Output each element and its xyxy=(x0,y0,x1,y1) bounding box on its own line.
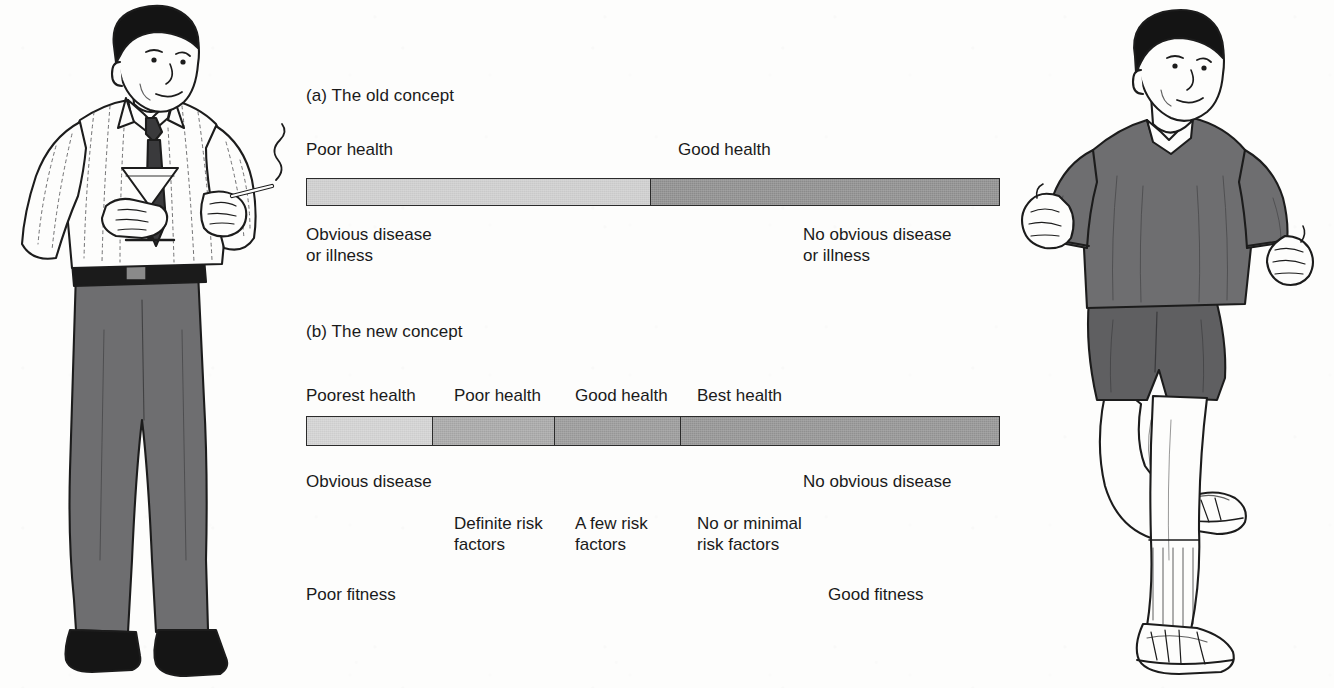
panel-a-continuum-bar xyxy=(306,178,1000,206)
panel-a-label-below-left: Obvious disease or illness xyxy=(306,224,432,266)
panel-a-segment-poor-health xyxy=(307,179,650,205)
panel-b-label-poorest-health: Poorest health xyxy=(306,385,416,406)
panel-a-title: (a) The old concept xyxy=(306,86,454,106)
panel-b-continuum-bar xyxy=(306,416,1000,446)
panel-a-label-above-left: Poor health xyxy=(306,139,393,160)
panel-b-label-obvious-disease: Obvious disease xyxy=(306,471,432,492)
panel-a-label-above-right: Good health xyxy=(678,139,771,160)
unhealthy-man-illustration xyxy=(0,0,306,688)
panel-b-label-no-obvious-disease: No obvious disease xyxy=(803,471,951,492)
panel-b-label-poor-fitness: Poor fitness xyxy=(306,584,396,605)
panel-b-segment-poorest-health xyxy=(307,417,432,445)
diagram-area: (a) The old concept Poor health Good hea… xyxy=(306,0,1001,688)
panel-b-label-good-health: Good health xyxy=(575,385,668,406)
panel-b-segment-good-health xyxy=(554,417,680,445)
panel-b-segment-poor-health xyxy=(432,417,554,445)
panel-a-segment-good-health xyxy=(650,179,999,205)
panel-b-label-poor-health: Poor health xyxy=(454,385,541,406)
healthy-man-illustration xyxy=(1001,0,1334,688)
panel-b-segment-best-health xyxy=(680,417,999,445)
panel-b-title: (b) The new concept xyxy=(306,322,463,342)
panel-b-annotation-no-or-minimal-risk-factors: No or minimal risk factors xyxy=(697,513,802,555)
panel-b-label-good-fitness: Good fitness xyxy=(828,584,923,605)
panel-a-label-below-right: No obvious disease or illness xyxy=(803,224,951,266)
panel-b-annotation-definite-risk-factors: Definite risk factors xyxy=(454,513,543,555)
panel-b-annotation-a-few-risk-factors: A few risk factors xyxy=(575,513,648,555)
figure-canvas: (a) The old concept Poor health Good hea… xyxy=(0,0,1334,688)
panel-b-label-best-health: Best health xyxy=(697,385,782,406)
